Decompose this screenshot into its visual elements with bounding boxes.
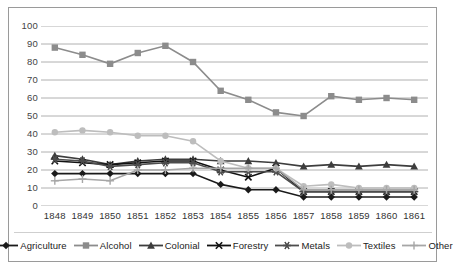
star-data-marker xyxy=(283,242,291,249)
plus-marker-icon xyxy=(401,240,427,251)
square-data-marker xyxy=(52,44,58,50)
y-axis-tick-label: 80 xyxy=(12,57,38,67)
x-axis-tick-label: 1854 xyxy=(206,210,236,221)
legend-item-other[interactable]: Other xyxy=(401,240,452,251)
legend-item-colonial[interactable]: Colonial xyxy=(138,240,200,251)
plus-data-marker xyxy=(410,241,418,249)
y-axis-tick-label: 90 xyxy=(12,39,38,49)
legend-item-alcohol[interactable]: Alcohol xyxy=(73,240,132,251)
series-colonial xyxy=(51,152,418,170)
circle-data-marker xyxy=(79,127,85,133)
series-line xyxy=(55,130,414,188)
series-canvas xyxy=(41,26,428,206)
y-axis-tick-label: 30 xyxy=(12,147,38,157)
square-data-marker xyxy=(300,113,306,119)
legend-item-agriculture[interactable]: Agriculture xyxy=(0,240,67,251)
x-axis-tick-label: 1853 xyxy=(178,210,208,221)
series-other xyxy=(51,164,418,194)
legend-item-label: Colonial xyxy=(165,240,200,251)
y-axis-tick-label: 40 xyxy=(12,129,38,139)
x-axis-tick-label: 1850 xyxy=(95,210,125,221)
y-axis-tick-label: 0 xyxy=(12,201,38,211)
x-axis-tick-label: 1857 xyxy=(289,210,319,221)
y-axis-tick-label: 100 xyxy=(12,21,38,31)
legend-item-label: Other xyxy=(428,240,452,251)
plus-data-marker xyxy=(106,177,114,185)
diamond-data-marker xyxy=(106,170,113,177)
circle-marker-icon xyxy=(336,240,362,251)
circle-data-marker xyxy=(107,129,113,135)
legend-item-metals[interactable]: Metals xyxy=(274,240,330,251)
square-data-marker xyxy=(273,109,279,115)
circle-data-marker xyxy=(52,129,58,135)
y-axis-tick-label: 50 xyxy=(12,111,38,121)
square-data-marker xyxy=(79,52,85,58)
square-data-marker xyxy=(383,95,389,101)
x-axis-tick-label: 1852 xyxy=(150,210,180,221)
square-data-marker xyxy=(356,97,362,103)
square-data-marker xyxy=(135,50,141,56)
legend-item-label: Textiles xyxy=(363,240,395,251)
diamond-data-marker xyxy=(3,241,10,248)
plus-data-marker xyxy=(189,164,197,172)
y-axis-tick-label: 10 xyxy=(12,183,38,193)
cross-marker-icon xyxy=(206,240,232,251)
triangle-marker-icon xyxy=(138,240,164,251)
circle-data-marker xyxy=(162,133,168,139)
star-marker-icon xyxy=(274,240,300,251)
x-axis-tick-label: 1855 xyxy=(233,210,263,221)
square-data-marker xyxy=(162,43,168,49)
legend-item-label: Alcohol xyxy=(100,240,132,251)
diamond-data-marker xyxy=(272,186,279,193)
square-data-marker xyxy=(107,61,113,67)
legend-item-label: Metals xyxy=(301,240,330,251)
series-agriculture xyxy=(51,170,418,201)
square-data-marker xyxy=(190,59,196,65)
circle-data-marker xyxy=(135,133,141,139)
x-axis-tick-label: 1856 xyxy=(261,210,291,221)
circle-data-marker xyxy=(190,138,196,144)
diamond-data-marker xyxy=(51,170,58,177)
chart-legend: AgricultureAlcoholColonialForestryMetals… xyxy=(14,232,432,254)
diamond-data-marker xyxy=(245,186,252,193)
series-line xyxy=(55,46,414,116)
legend-item-label: Agriculture xyxy=(20,240,67,251)
square-data-marker xyxy=(328,93,334,99)
x-axis-tick-label: 1859 xyxy=(344,210,374,221)
square-data-marker xyxy=(83,242,89,248)
x-axis-tick-label: 1851 xyxy=(123,210,153,221)
plus-data-marker xyxy=(327,186,335,194)
plus-data-marker xyxy=(51,177,59,185)
x-axis-tick-label: 1848 xyxy=(40,210,70,221)
x-axis-tick-label: 1858 xyxy=(316,210,346,221)
series-alcohol xyxy=(52,43,418,120)
plot-area xyxy=(41,26,428,206)
y-axis-tick-label: 70 xyxy=(12,75,38,85)
square-marker-icon xyxy=(73,240,99,251)
x-axis-tick-label: 1861 xyxy=(399,210,429,221)
square-data-marker xyxy=(217,88,223,94)
square-data-marker xyxy=(411,97,417,103)
legend-item-textiles[interactable]: Textiles xyxy=(336,240,395,251)
y-axis-tick-label: 20 xyxy=(12,165,38,175)
legend-item-forestry[interactable]: Forestry xyxy=(206,240,269,251)
series-textiles xyxy=(52,127,418,191)
circle-data-marker xyxy=(217,158,223,164)
plus-data-marker xyxy=(78,175,86,183)
y-axis-tick-label: 60 xyxy=(12,93,38,103)
diamond-data-marker xyxy=(217,181,224,188)
legend-item-label: Forestry xyxy=(233,240,269,251)
x-axis: 1848184918501851185218531854185518561857… xyxy=(41,210,428,224)
circle-data-marker xyxy=(346,242,352,248)
y-axis: 1009080706050403020100 xyxy=(8,0,38,270)
square-data-marker xyxy=(245,97,251,103)
x-axis-tick-label: 1860 xyxy=(372,210,402,221)
diamond-marker-icon xyxy=(0,240,19,251)
x-axis-tick-label: 1849 xyxy=(67,210,97,221)
